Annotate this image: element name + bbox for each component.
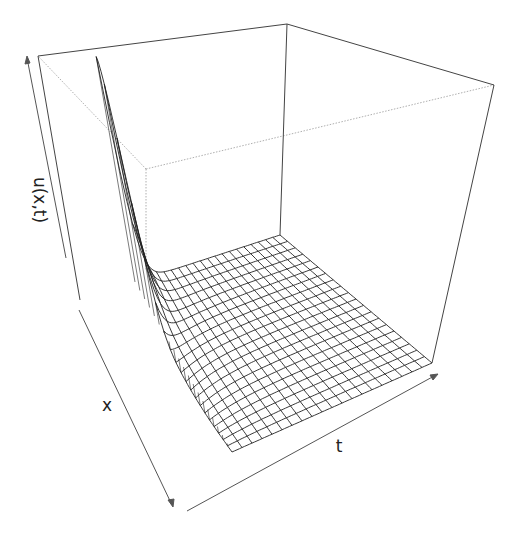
axis-arrows xyxy=(25,56,438,511)
z-axis-arrow xyxy=(27,58,66,258)
t-axis-label: t xyxy=(336,436,343,456)
bounding-box xyxy=(38,24,494,363)
surface-plot: u(x,t) x t xyxy=(0,0,508,536)
box-hidden-edges xyxy=(38,56,494,270)
x-axis-label: x xyxy=(102,395,112,415)
z-axis-label: u(x,t) xyxy=(30,177,50,223)
surface-mesh xyxy=(96,57,432,452)
x-axis-arrow xyxy=(79,310,172,505)
t-axis-arrow xyxy=(187,375,436,511)
